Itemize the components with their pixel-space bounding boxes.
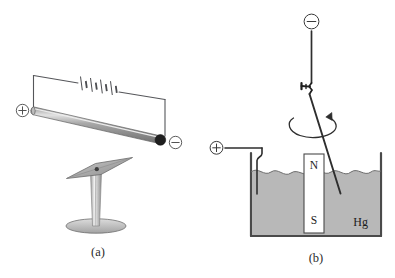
terminal-positive-b [210,141,223,154]
clamp-kink [309,83,312,94]
wire-pivot-clamp [302,83,313,94]
rotation-arrowhead [326,113,332,121]
battery-plate-short-1 [86,81,87,88]
battery-plate-short-2 [96,83,97,90]
panel-b: Hg N S [210,14,381,265]
rod-left-end [31,107,35,115]
needle-stand [66,172,126,233]
battery-symbol [81,77,117,96]
battery-plate-short-3 [106,84,107,91]
conducting-rod [31,107,166,145]
terminal-positive-a [16,104,28,116]
wire-top-left [34,76,79,84]
magnet-north-label: N [310,159,319,171]
mercury-label: Hg [353,215,368,229]
rotation-ellipse [289,118,336,138]
positive-electrode-b [225,148,262,194]
terminal-negative-a [169,136,181,148]
bar-magnet: N S [304,154,324,233]
battery-plate-long-4 [111,81,113,95]
battery-plate-long-1 [81,77,83,91]
figure-root: (a) Hg N S [0,0,395,278]
battery-plate-long-2 [91,78,93,92]
panel-b-caption: (b) [309,251,324,265]
terminal-negative-b [304,14,319,29]
panel-a: (a) [16,76,181,260]
rod-negative-cap [155,135,166,146]
battery-plate-short-4 [116,86,117,93]
panel-a-caption: (a) [91,245,105,259]
needle-pivot-dot [95,167,99,171]
rotation-arrow [289,113,336,138]
physics-figure: (a) Hg N S [0,0,395,278]
rod-highlight [36,109,159,137]
battery-plate-long-3 [101,80,103,94]
wire-top-right [119,92,165,100]
magnet-south-label: S [311,214,317,226]
